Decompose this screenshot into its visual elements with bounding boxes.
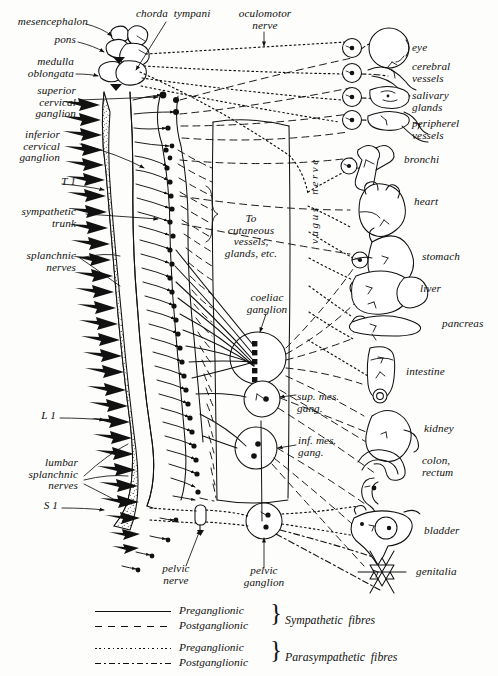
- label-sympathetic-trunk: sympathetic trunk: [2, 206, 76, 229]
- legend-line-dash-dot: [95, 663, 171, 665]
- organ-liver: [352, 271, 428, 314]
- brace-parasympathetic: }: [270, 636, 282, 664]
- label-kidney: kidney: [424, 423, 494, 435]
- legend: Preganglionic Postganglionic Preganglion…: [95, 604, 425, 670]
- label-pelvic-ganglion: pelvic ganglion: [232, 565, 296, 588]
- organ-eye: [369, 28, 409, 68]
- label-medulla-oblongata: medulla oblongata: [10, 56, 74, 79]
- label-peripheral-vessels: peripherel vessels: [412, 118, 494, 141]
- label-inferior-mesenteric-ganglion: inf. mes. gang.: [298, 435, 356, 458]
- pelvic-nerve-ganglion: [195, 505, 206, 536]
- label-cerebral-vessels: cerebral vessels: [412, 61, 492, 84]
- label-pons: pons: [14, 34, 76, 46]
- organ-bladder: [351, 506, 420, 567]
- legend-label-para-post: Postganglionic: [179, 656, 248, 668]
- legend-row-sym-pre: Preganglionic: [95, 604, 425, 619]
- brainstem-group: [99, 26, 150, 91]
- label-s1: S 1: [26, 500, 58, 512]
- label-genitalia: genitalia: [416, 566, 494, 578]
- legend-group-sympathetic: Sympathetic fibres: [285, 613, 375, 628]
- label-coeliac-ganglion: coeliac ganglion: [232, 292, 302, 315]
- label-heart: heart: [414, 196, 494, 208]
- organ-heart: [359, 182, 405, 237]
- organ-pancreas: [349, 316, 420, 340]
- label-stomach: stomach: [422, 251, 496, 263]
- label-eye: eye: [412, 42, 492, 54]
- label-oculomotor-nerve: oculomotor nerve: [224, 8, 306, 31]
- label-superior-mesenteric-ganglion: sup. mes. gang.: [297, 391, 357, 414]
- legend-label-sym-post: Postganglionic: [179, 619, 248, 631]
- organ-bronchi: [355, 145, 394, 190]
- legend-line-dotted: [95, 648, 171, 650]
- label-splanchnic-nerves: splanchnic nerves: [4, 250, 76, 273]
- label-liver: liver: [420, 283, 490, 295]
- label-superior-cervical-ganglion: superior cervical ganglion: [6, 85, 76, 120]
- legend-label-para-pre: Preganglionic: [179, 641, 244, 653]
- label-l1: L 1: [22, 410, 56, 422]
- organ-intestine: [367, 347, 394, 403]
- label-inferior-cervical-ganglion: inferior cervical ganglion: [6, 129, 60, 164]
- sympathetic-trunk-chain: [157, 96, 203, 500]
- organ-kidney: [366, 410, 419, 461]
- label-vagus-nerve: vagus nerve: [308, 157, 320, 244]
- legend-group-parasympathetic: Parasympathetic fibres: [285, 650, 397, 665]
- label-pancreas: pancreas: [442, 318, 498, 330]
- label-mesencephalon: mesencephalon: [10, 16, 88, 28]
- pelvic-ganglion-shape: [246, 503, 282, 539]
- inferior-mesenteric-ganglion-shape: [235, 427, 277, 469]
- label-t1: T 1: [34, 176, 76, 188]
- legend-line-solid: [95, 611, 171, 612]
- label-intestine: intestine: [406, 366, 486, 378]
- superior-mesenteric-ganglion-shape: [244, 381, 280, 417]
- label-bronchi: bronchi: [404, 154, 484, 166]
- label-pelvic-nerve: pelvic nerve: [150, 563, 202, 586]
- brace-sympathetic: }: [270, 599, 282, 627]
- label-lumbar-splanchnic-nerves: lumbar splanchnic nerves: [4, 457, 78, 492]
- label-bladder: bladder: [424, 525, 496, 537]
- organ-salivary-glands: [370, 87, 410, 109]
- label-salivary-glands: salivary glands: [412, 90, 492, 113]
- legend-row-sym-post: Postganglionic: [95, 619, 425, 634]
- label-to-cutaneous-vessels: To cutaneous vessels, glands, etc.: [216, 213, 286, 259]
- diagram-canvas: mesencephalon pons medulla oblongata sup…: [0, 0, 498, 676]
- legend-label-sym-pre: Preganglionic: [179, 604, 244, 616]
- trunk-ganglia: [136, 92, 201, 573]
- label-colon-rectum: colon, rectum: [422, 455, 492, 478]
- legend-line-dashed: [95, 626, 171, 628]
